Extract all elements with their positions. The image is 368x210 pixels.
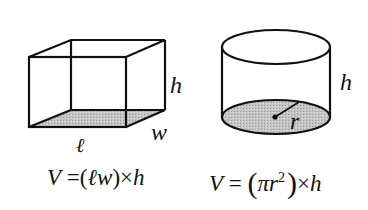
box-length-label: ℓ xyxy=(76,134,85,156)
volume-diagram: h w ℓ r h V =(ℓw)×h V = (πr2 )×h xyxy=(0,0,368,210)
formula-h: h xyxy=(310,171,322,196)
formula-equals: = xyxy=(229,171,242,196)
formula-l: ℓ xyxy=(87,165,97,190)
formula-V: V xyxy=(47,165,61,190)
formula-pi: π xyxy=(258,171,270,196)
formula-exponent: 2 xyxy=(278,170,285,185)
formula-h: h xyxy=(133,165,145,190)
rectangular-prism xyxy=(29,40,165,127)
formula-times: × xyxy=(297,171,310,196)
cylinder-radius-label: r xyxy=(290,108,300,134)
cylinder-volume-formula: V = (πr2 )×h xyxy=(209,160,321,196)
cylinder-top xyxy=(222,30,330,64)
cylinder xyxy=(222,30,330,134)
box-height-label: h xyxy=(170,72,182,98)
formula-equals: = xyxy=(67,165,80,190)
formula-times: × xyxy=(120,165,133,190)
formula-close-paren: ) xyxy=(287,166,297,199)
formula-r: r xyxy=(269,171,278,196)
box-volume-formula: V =(ℓw)×h xyxy=(47,160,145,196)
formula-open-paren: ( xyxy=(248,166,258,199)
formula-w: w xyxy=(97,165,112,190)
formula-V: V xyxy=(209,171,223,196)
center-dot xyxy=(272,114,277,119)
box-width-label: w xyxy=(151,119,167,145)
formula-close-paren: ) xyxy=(112,165,120,190)
cylinder-height-label: h xyxy=(340,69,352,95)
